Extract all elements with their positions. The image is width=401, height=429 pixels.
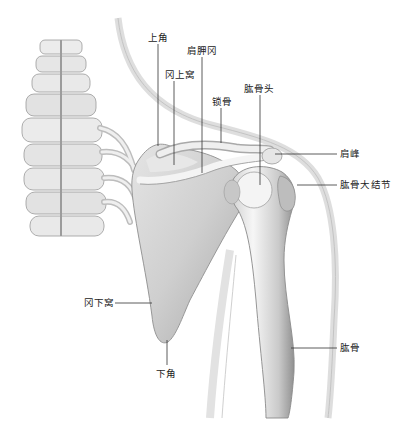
label-acromion: 肩峰 bbox=[340, 148, 360, 159]
label-greater-tubercle: 肱骨大结节 bbox=[340, 179, 391, 190]
shoulder-anatomy-illustration bbox=[0, 0, 401, 429]
label-scapular-spine: 肩胛冈 bbox=[187, 45, 218, 56]
clavicle bbox=[160, 145, 270, 154]
vertebral-column bbox=[22, 40, 106, 236]
label-humeral-head: 肱骨头 bbox=[244, 83, 275, 94]
label-humerus: 肱骨 bbox=[340, 342, 360, 353]
label-superior-angle: 上角 bbox=[148, 32, 168, 43]
label-clavicle: 锁骨 bbox=[212, 96, 232, 107]
acromion-shape bbox=[262, 148, 282, 164]
humerus-bone bbox=[224, 167, 295, 418]
label-supraspinous-fossa: 冈上窝 bbox=[165, 69, 196, 80]
label-inferior-angle: 下角 bbox=[156, 368, 176, 379]
label-infraspinous-fossa: 冈下窝 bbox=[84, 297, 115, 308]
